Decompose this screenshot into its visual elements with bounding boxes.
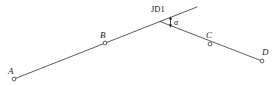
label-point-c: C xyxy=(206,30,213,40)
label-point-d: D xyxy=(261,47,269,57)
diagram-canvas: A B C D JD1 α xyxy=(0,0,278,86)
forward-tangent-line xyxy=(160,22,262,62)
back-tangent-line xyxy=(14,22,160,80)
label-point-b: B xyxy=(100,30,106,40)
route-deflection-diagram: A B C D JD1 α xyxy=(0,0,278,86)
station-marker-c xyxy=(208,42,212,46)
label-deflection-angle: α xyxy=(174,18,179,27)
station-marker-d xyxy=(260,59,264,63)
station-marker-b xyxy=(103,41,107,45)
label-point-a: A xyxy=(7,66,14,76)
label-vertex-jd1: JD1 xyxy=(151,4,165,14)
tangent-extension-line xyxy=(160,7,197,22)
station-marker-a xyxy=(12,77,16,81)
